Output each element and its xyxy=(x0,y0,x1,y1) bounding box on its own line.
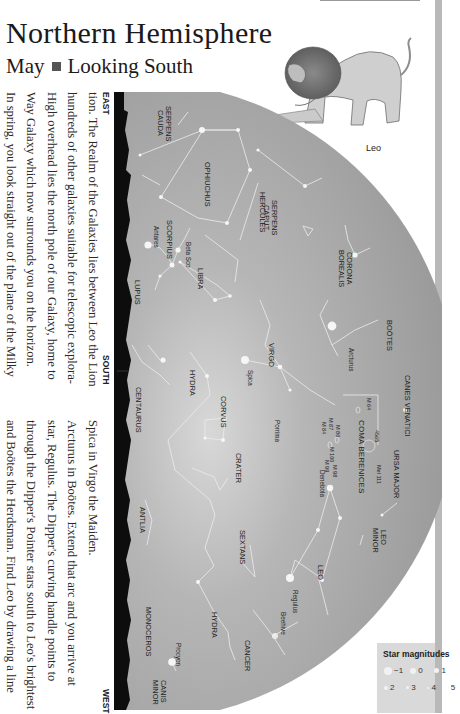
star-procyon xyxy=(168,658,176,666)
body-text-column-2: Spica in Virgo the Maiden. Arcturus in B… xyxy=(1,420,104,709)
svg-text:CORVUS: CORVUS xyxy=(219,396,228,428)
svg-text:Beehive: Beehive xyxy=(280,612,287,635)
text-line: star, Regulus. The Dipper's curving hand… xyxy=(42,420,63,709)
svg-text:M 87: M 87 xyxy=(328,418,334,430)
svg-text:CRATER: CRATER xyxy=(234,453,243,483)
svg-text:M 64: M 64 xyxy=(366,398,372,410)
svg-text:SCORPIUS: SCORPIUS xyxy=(165,220,174,259)
svg-text:LIBRA: LIBRA xyxy=(196,268,205,290)
text-line: In spring, you look straight out of the … xyxy=(1,92,22,387)
text-line: tion. The Realm of the Galaxies lies bet… xyxy=(83,92,104,387)
magnitude-value: 5 xyxy=(451,683,460,692)
text-line: High overhead lies the north pole of our… xyxy=(42,92,63,387)
magnitude-value: 3 xyxy=(411,683,422,692)
svg-text:CANCER: CANCER xyxy=(243,640,252,671)
svg-text:CAUDA: CAUDA xyxy=(156,110,165,136)
star-denebola xyxy=(327,485,333,491)
svg-text:Mel 111: Mel 111 xyxy=(376,465,382,484)
svg-text:Porrima: Porrima xyxy=(274,420,281,443)
svg-text:COMA BERENICES: COMA BERENICES xyxy=(357,420,366,493)
svg-text:MINOR: MINOR xyxy=(151,680,160,705)
svg-text:HYDRA: HYDRA xyxy=(210,612,219,638)
magnitude-dot-icon xyxy=(427,687,429,689)
magnitude-dot-icon xyxy=(406,686,409,689)
magnitude-dot-icon xyxy=(448,687,449,688)
text-line: Arcturus in Boötes. Extend that arc and … xyxy=(62,420,83,709)
svg-text:Antares: Antares xyxy=(153,226,160,248)
svg-text:M 84: M 84 xyxy=(321,422,327,434)
svg-text:Arcturus: Arcturus xyxy=(348,348,355,371)
svg-text:OPHIUCHUS: OPHIUCHUS xyxy=(203,162,212,207)
svg-text:Denebola: Denebola xyxy=(319,470,326,497)
star-magnitude-legend: Star magnitudes −1 0 1 2 3 4 5 xyxy=(377,643,435,713)
svg-text:CENTAURUS: CENTAURUS xyxy=(134,387,143,433)
svg-text:M 86: M 86 xyxy=(335,425,341,437)
svg-text:CAPUT: CAPUT xyxy=(262,205,271,231)
magnitude-dot-icon xyxy=(410,668,416,674)
svg-text:VIRGO: VIRGO xyxy=(267,343,276,367)
svg-text:BOREALIS: BOREALIS xyxy=(337,250,346,287)
svg-text:Spica: Spica xyxy=(246,370,254,386)
svg-text:CANES VENATICI: CANES VENATICI xyxy=(403,375,412,437)
text-line: through the Dipper's Pointer stars south… xyxy=(21,420,42,709)
magnitude-dot-icon xyxy=(434,668,439,673)
star-regulus xyxy=(286,574,294,582)
svg-text:MONOCEROS: MONOCEROS xyxy=(144,607,153,657)
svg-text:SEXTANS: SEXTANS xyxy=(238,530,247,564)
svg-text:M 99: M 99 xyxy=(324,460,330,472)
body-text-column-1: tion. The Realm of the Galaxies lies bet… xyxy=(1,92,104,387)
svg-text:HYDRA: HYDRA xyxy=(188,370,197,396)
magnitude-value: 2 xyxy=(390,683,401,692)
star-antares xyxy=(144,241,151,248)
svg-text:BOÖTES: BOÖTES xyxy=(385,320,394,351)
magnitude-dot-icon xyxy=(384,686,388,690)
beehive-cluster xyxy=(272,633,278,639)
star-spica xyxy=(241,356,249,364)
svg-text:URSA MAJOR: URSA MAJOR xyxy=(392,450,401,498)
magnitude-value: 0 xyxy=(418,666,429,675)
legend-row-1: −1 0 1 xyxy=(381,666,452,675)
star-arcturus xyxy=(328,322,337,331)
text-line: Way Galaxy which now surrounds you on th… xyxy=(21,92,42,387)
sky-dome xyxy=(118,92,442,710)
magnitude-value: −1 xyxy=(394,666,405,675)
magnitude-value: 4 xyxy=(431,683,442,692)
svg-text:ANTLIA: ANTLIA xyxy=(138,507,147,533)
svg-text:Beta Sco: Beta Sco xyxy=(185,242,192,268)
svg-text:MINOR: MINOR xyxy=(371,528,380,553)
svg-text:LUPUS: LUPUS xyxy=(133,280,142,305)
legend-row-2: 2 3 4 5 xyxy=(381,683,460,692)
svg-text:M 98: M 98 xyxy=(332,465,338,477)
svg-text:4565: 4565 xyxy=(374,430,380,442)
horizon-silhouette xyxy=(114,92,132,710)
legend-title: Star magnitudes xyxy=(383,649,450,659)
svg-text:Regulus: Regulus xyxy=(291,590,299,613)
svg-text:Procyon: Procyon xyxy=(174,643,182,667)
svg-text:LEO: LEO xyxy=(316,565,325,580)
magnitude-dot-icon xyxy=(384,667,392,675)
text-line: and Boötes the Herdsman. Find Leo by dra… xyxy=(1,420,22,709)
text-line: hundreds of other galaxies suitable for … xyxy=(62,92,83,387)
magnitude-value: 1 xyxy=(441,666,452,675)
text-line: Spica in Virgo the Maiden. xyxy=(83,420,104,709)
